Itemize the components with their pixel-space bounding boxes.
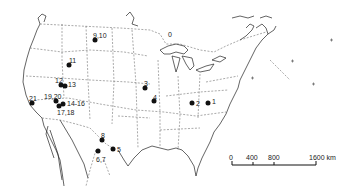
site-marker-dot	[63, 84, 68, 89]
canada-border	[40, 24, 240, 52]
scale-tick-400: 400	[246, 154, 258, 161]
site-marker-dot	[57, 104, 62, 109]
site-label: 1	[212, 98, 216, 105]
site-marker-dot	[111, 147, 116, 152]
map-figure: 123456,789,1011121314-1617,1819,20210 0 …	[0, 0, 352, 192]
site-label: 9,10	[93, 32, 107, 39]
site-label: 2	[196, 100, 200, 107]
scale-tick-1600km: 1600 km	[309, 154, 336, 161]
atlantic-mark	[330, 39, 333, 42]
scale-tick-0: 0	[229, 154, 233, 161]
site-label: 14-16	[67, 100, 85, 107]
site-label: 21	[29, 95, 37, 102]
scale-tick-800: 800	[268, 154, 280, 161]
site-label: 19,20	[44, 93, 62, 100]
site-label: 11	[69, 57, 76, 64]
scale-bar	[232, 161, 316, 165]
site-label: 13	[68, 81, 76, 88]
site-label: 4	[153, 94, 157, 101]
site-label: 3	[144, 80, 148, 87]
site-label: 0	[168, 31, 172, 38]
gulf-coastline	[118, 146, 196, 176]
site-label: 8	[101, 132, 105, 139]
site-label: 6,7	[96, 156, 106, 163]
site-marker-dot	[206, 101, 211, 106]
site-label: 5	[117, 146, 121, 153]
great-lakes	[160, 44, 188, 54]
site-label: 17,18	[57, 109, 75, 116]
site-marker-dot	[96, 149, 101, 154]
baja-coast	[50, 130, 62, 180]
site-label: 12	[55, 77, 63, 84]
site-marker-dot	[190, 101, 195, 106]
